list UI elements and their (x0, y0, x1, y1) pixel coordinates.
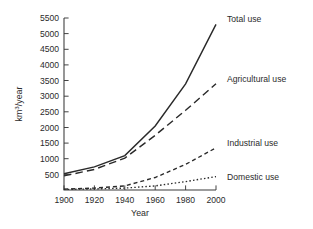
y-tick-label: 2000 (40, 123, 59, 133)
x-tick-label: 2000 (206, 195, 225, 205)
series-line-agricultural-use (64, 84, 216, 176)
y-tick-label: 3500 (40, 76, 59, 86)
y-tick-label: 5500 (40, 13, 59, 23)
series-label-agricultural-use: Agricultural use (227, 74, 286, 84)
series-label-industrial-use: Industrial use (227, 138, 278, 148)
axis-spines (64, 18, 216, 190)
y-axis-title-base: km (14, 110, 24, 122)
series-line-total-use (64, 24, 216, 173)
series-line-domestic-use (64, 177, 216, 190)
y-tick-label: 5000 (40, 29, 59, 39)
series-label-total-use: Total use (227, 14, 262, 24)
y-tick-label: 1500 (40, 138, 59, 148)
y-tick-label: 4500 (40, 44, 59, 54)
svg-text:km3/year: km3/year (13, 87, 24, 122)
x-tick-labels: 1900 1920 1940 1960 1980 2000 (54, 195, 225, 205)
y-axis-title-suffix: /year (14, 87, 24, 107)
x-axis-title: Year (131, 208, 149, 218)
x-tick-label: 1900 (54, 195, 73, 205)
x-tick-label: 1980 (176, 195, 195, 205)
y-tick-labels: 500 1000 1500 2000 2500 3000 3500 4000 4… (40, 13, 59, 179)
y-tick-label: 4000 (40, 60, 59, 70)
water-use-line-chart: 500 1000 1500 2000 2500 3000 3500 4000 4… (0, 0, 313, 229)
y-tick-label: 3000 (40, 91, 59, 101)
x-tick-label: 1920 (85, 195, 104, 205)
x-tick-label: 1960 (146, 195, 165, 205)
y-axis-title: km3/year (13, 87, 24, 122)
y-tick-marks (64, 18, 69, 174)
y-tick-label: 500 (45, 170, 60, 180)
y-tick-label: 1000 (40, 154, 59, 164)
chart-canvas: 500 1000 1500 2000 2500 3000 3500 4000 4… (0, 0, 313, 229)
series-label-domestic-use: Domestic use (227, 172, 279, 182)
x-tick-label: 1940 (115, 195, 134, 205)
y-tick-label: 2500 (40, 107, 59, 117)
